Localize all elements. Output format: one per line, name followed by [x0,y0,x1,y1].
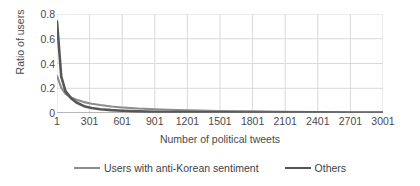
y-tick-label: 0.8 [40,8,55,20]
x-tick-label: 3001 [371,115,394,127]
y-tick-label: 0.6 [40,33,55,45]
y-tick-label: 0.4 [40,58,55,70]
chart-figure: Ratio of users 0.80.60.40.20 13016019011… [0,0,420,186]
x-axis-title: Number of political tweets [57,133,383,145]
legend-label: Users with anti-Korean sentiment [104,162,259,174]
plot-area [57,14,383,113]
x-tick-label: 601 [113,115,131,127]
y-axis-tick-labels: 0.80.60.40.20 [22,0,55,186]
x-tick-label: 1 [54,115,60,127]
legend-line-swatch [74,167,100,169]
x-tick-label: 2101 [274,115,297,127]
plot-svg [57,14,383,113]
y-tick-label: 0.2 [40,82,55,94]
chart-legend: Users with anti-Korean sentimentOthers [0,162,420,174]
x-tick-label: 1501 [208,115,231,127]
x-axis-tick-labels: 13016019011201150118012101240127013001 [0,115,420,129]
x-tick-label: 1201 [176,115,199,127]
legend-label: Others [315,162,347,174]
x-tick-label: 301 [81,115,99,127]
legend-item[interactable]: Others [285,162,347,174]
x-tick-label: 2701 [339,115,362,127]
x-tick-label: 901 [146,115,164,127]
x-tick-label: 1801 [241,115,264,127]
legend-line-swatch [285,167,311,169]
legend-item[interactable]: Users with anti-Korean sentiment [74,162,259,174]
x-tick-label: 2401 [306,115,329,127]
